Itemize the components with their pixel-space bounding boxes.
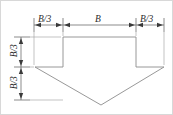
dim-label-right-barb-width: B/3	[140, 15, 153, 25]
dim-label-shaft-height: B/3	[10, 40, 20, 62]
dim-label-shaft-width: B	[95, 15, 101, 25]
arrowhead-b-right	[129, 23, 135, 27]
down-arrow-shape	[35, 37, 164, 105]
dim-label-head-height: B/3	[10, 72, 20, 94]
arrowhead-down-head	[19, 93, 23, 99]
arrowhead-mid-left-inward	[56, 23, 62, 27]
arrowhead-right-inward	[157, 23, 163, 27]
dim-label-left-barb-width: B/3	[38, 15, 51, 25]
arrow-dimension-figure: B/3 B B/3 B/3 B/3	[0, 0, 173, 115]
arrowhead-b-left	[64, 23, 70, 27]
